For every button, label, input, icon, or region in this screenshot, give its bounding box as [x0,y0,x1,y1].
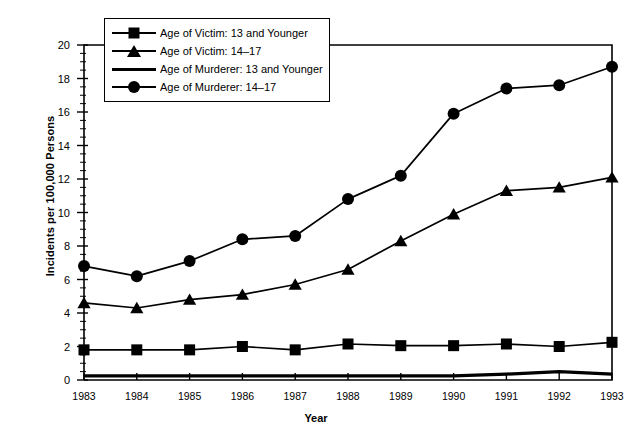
x-tick-label: 1989 [374,390,428,402]
y-tick-label: 8 [36,240,70,252]
y-tick-label: 16 [36,106,70,118]
legend-item-victim-14-17: Age of Victim: 14–17 [110,42,323,60]
x-tick-label: 1991 [479,390,533,402]
y-tick-label: 2 [36,341,70,353]
x-tick-label: 1992 [532,390,586,402]
y-tick-label: 10 [36,207,70,219]
y-tick-label: 0 [36,374,70,386]
y-tick-label: 20 [36,39,70,51]
y-tick-label: 4 [36,307,70,319]
chart-legend: Age of Victim: 13 and Younger Age of Vic… [104,18,330,102]
x-tick-label: 1993 [585,390,632,402]
legend-label: Age of Victim: 14–17 [158,45,261,57]
legend-swatch-circle-icon [110,79,158,95]
x-tick-label: 1983 [57,390,111,402]
y-tick-label: 12 [36,173,70,185]
x-tick-label: 1987 [268,390,322,402]
legend-label: Age of Victim: 13 and Younger [158,27,308,39]
x-tick-label: 1985 [163,390,217,402]
x-tick-label: 1986 [215,390,269,402]
legend-swatch-line-icon [110,61,158,77]
legend-swatch-triangle-icon [110,43,158,59]
x-tick-label: 1984 [110,390,164,402]
legend-label: Age of Murderer: 14–17 [158,81,276,93]
legend-item-murderer-14-17: Age of Murderer: 14–17 [110,78,323,96]
y-tick-label: 14 [36,140,70,152]
legend-label: Age of Murderer: 13 and Younger [158,63,323,75]
y-tick-label: 18 [36,73,70,85]
y-tick-label: 6 [36,274,70,286]
chart-container: Incidents per 100,000 Persons Year 02468… [0,0,632,440]
x-tick-label: 1990 [427,390,481,402]
x-tick-label: 1988 [321,390,375,402]
legend-item-victim-13-younger: Age of Victim: 13 and Younger [110,24,323,42]
legend-item-murderer-13-younger: Age of Murderer: 13 and Younger [110,60,323,78]
legend-swatch-square-icon [110,25,158,41]
